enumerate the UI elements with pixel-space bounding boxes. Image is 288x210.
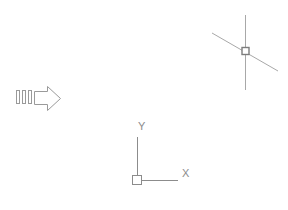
ucs-origin-box-icon[interactable] xyxy=(133,176,142,185)
ucs-y-axis-label: Y xyxy=(138,121,145,132)
ucs-icon-layer[interactable]: Y X xyxy=(0,0,288,210)
ucs-x-axis-label: X xyxy=(182,168,189,179)
drawing-viewport[interactable]: Y X xyxy=(0,0,288,210)
